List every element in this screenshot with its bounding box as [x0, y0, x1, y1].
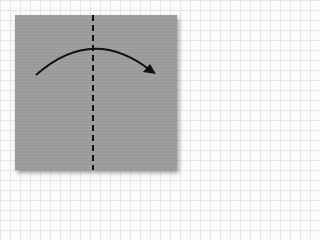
- fold-arrow-icon: [36, 49, 156, 75]
- diagram-overlay: [0, 0, 187, 185]
